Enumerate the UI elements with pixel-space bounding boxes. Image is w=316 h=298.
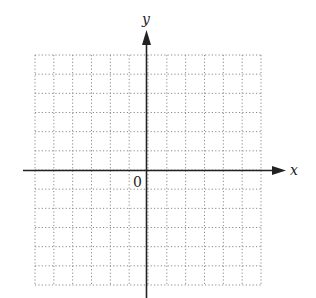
x-axis-arrow-icon: [272, 166, 286, 175]
x-axis-label: x: [290, 162, 298, 178]
y-axis-arrow-icon: [142, 30, 151, 45]
origin-label: 0: [133, 174, 142, 190]
y-axis-label: y: [141, 11, 151, 27]
coordinate-plane: x y 0: [0, 0, 316, 298]
